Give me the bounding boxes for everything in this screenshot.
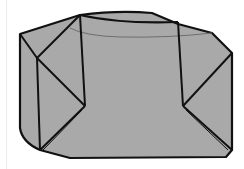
crystal-drawing: [0, 0, 244, 169]
